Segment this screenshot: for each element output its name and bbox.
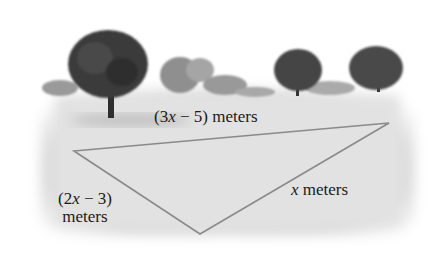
left-side-label: (2x − 3) meters xyxy=(45,190,125,226)
top-side-label: (3x − 5) meters xyxy=(154,108,258,126)
small-tree xyxy=(349,46,403,92)
right-side-label: x meters xyxy=(291,181,348,199)
